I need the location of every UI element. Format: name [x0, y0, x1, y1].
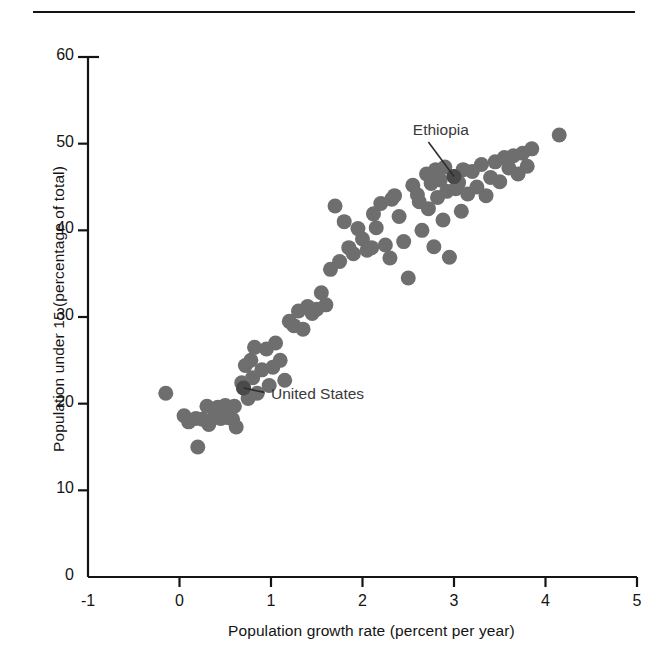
data-point: [436, 212, 451, 227]
x-tick-label: 0: [155, 592, 205, 610]
data-point: [190, 440, 205, 455]
data-point: [454, 204, 469, 219]
data-point: [492, 174, 507, 189]
annotation-label: Ethiopia: [413, 121, 469, 139]
annotation-label: United States: [271, 385, 364, 403]
data-point: [474, 157, 489, 172]
data-point: [268, 336, 283, 351]
data-point: [392, 209, 407, 224]
y-tick-label: 60: [28, 46, 74, 64]
x-tick-label: -1: [63, 592, 113, 610]
x-tick-label: 4: [521, 592, 571, 610]
plot-canvas: [0, 0, 667, 655]
y-tick-label: 0: [28, 566, 74, 584]
data-point: [158, 386, 173, 401]
data-point: [337, 214, 352, 229]
data-point: [229, 420, 244, 435]
data-point: [387, 188, 402, 203]
data-point: [524, 141, 539, 156]
data-point: [378, 238, 393, 253]
x-axis-title: Population growth rate (percent per year…: [228, 622, 515, 640]
data-point: [479, 188, 494, 203]
data-point: [552, 128, 567, 143]
data-points-group: [158, 128, 566, 455]
data-point: [426, 239, 441, 254]
x-tick-label: 5: [612, 592, 662, 610]
y-axis-title: Population under 15 (percentage of total…: [50, 99, 68, 519]
data-point: [520, 159, 535, 174]
x-tick-label: 3: [429, 592, 479, 610]
data-point: [227, 399, 242, 414]
data-point: [396, 234, 411, 249]
scatter-plot-figure: 0102030405060-1012345 EthiopiaUnited Sta…: [0, 0, 667, 655]
data-point: [401, 271, 416, 286]
x-tick-label: 2: [338, 592, 388, 610]
data-point: [346, 246, 361, 261]
data-point: [273, 353, 288, 368]
data-point: [382, 251, 397, 266]
x-tick-label: 1: [246, 592, 296, 610]
data-point: [332, 254, 347, 269]
data-point: [328, 199, 343, 214]
data-point: [369, 220, 384, 235]
data-point: [296, 322, 311, 337]
data-point: [414, 223, 429, 238]
data-point: [318, 297, 333, 312]
data-point: [364, 240, 379, 255]
data-point: [442, 250, 457, 265]
